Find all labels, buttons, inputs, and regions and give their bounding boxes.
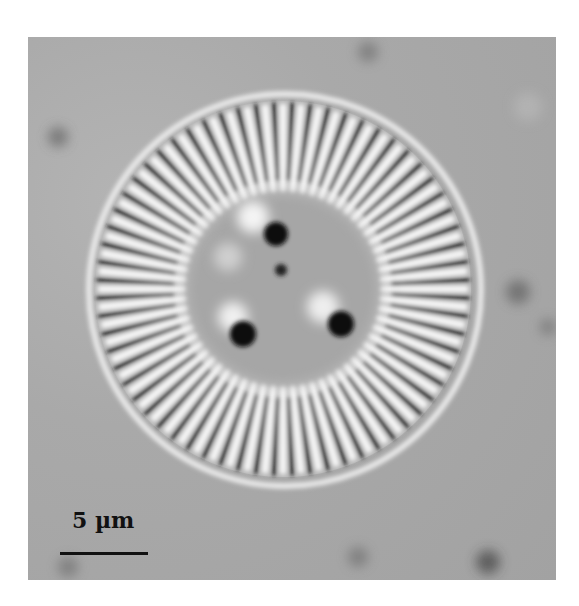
scale-bar-label: 5 µm xyxy=(72,507,134,533)
scale-bar xyxy=(60,552,148,555)
micrograph: 5 µm xyxy=(28,37,556,580)
diatom-graphic xyxy=(28,37,556,580)
